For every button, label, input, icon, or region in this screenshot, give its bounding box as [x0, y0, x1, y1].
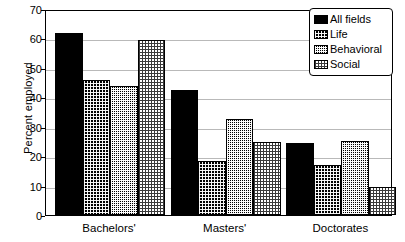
bar [286, 143, 314, 215]
y-axis-tick-label: 40 [2, 92, 42, 104]
legend: All fieldsLifeBehavioralSocial [309, 8, 393, 76]
y-axis-tick-label: 70 [2, 4, 42, 16]
y-axis-tick-label: 60 [2, 33, 42, 45]
legend-item-label: Behavioral [330, 44, 382, 55]
legend-item: Social [314, 57, 389, 72]
x-axis-tick-label: Masters' [203, 222, 246, 234]
y-axis-tick-label: 0 [2, 210, 42, 222]
bar [341, 141, 369, 215]
legend-item: Behavioral [314, 42, 389, 57]
legend-item-label: All fields [330, 14, 371, 25]
bar [314, 165, 342, 215]
x-axis-tick-label: Bachelors' [82, 222, 135, 234]
bar [171, 90, 199, 215]
y-axis-tick-mark [41, 216, 45, 217]
bar-chart: Percent employed 010203040506070 All fie… [0, 0, 405, 242]
bar [138, 40, 166, 215]
legend-swatch-icon [314, 30, 328, 39]
y-axis-tick-label: 20 [2, 151, 42, 163]
bar [198, 161, 226, 215]
x-axis-tick-label: Doctorates [313, 222, 369, 234]
y-axis-tick-container: 010203040506070 [0, 10, 42, 216]
legend-item-label: Life [330, 29, 348, 40]
legend-item: Life [314, 27, 389, 42]
bar [110, 86, 138, 215]
y-axis-tick-label: 50 [2, 63, 42, 75]
bar [83, 80, 111, 215]
legend-swatch-icon [314, 60, 328, 69]
legend-swatch-icon [314, 15, 328, 24]
legend-item: All fields [314, 12, 389, 27]
bar [253, 142, 281, 215]
bar [226, 119, 254, 215]
legend-item-label: Social [330, 59, 360, 70]
bar [55, 33, 83, 215]
y-axis-tick-label: 10 [2, 181, 42, 193]
legend-swatch-icon [314, 45, 328, 54]
bar [369, 187, 397, 215]
y-axis-tick-label: 30 [2, 122, 42, 134]
